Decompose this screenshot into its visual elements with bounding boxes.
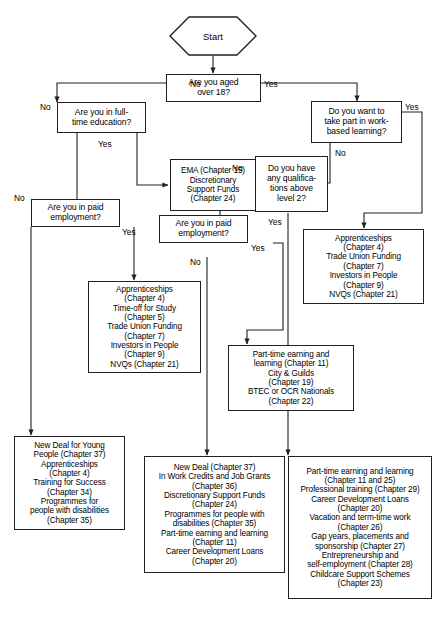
node-question-paid-employment-middle: Are you in paid employment?	[159, 215, 248, 243]
node-outcome-parttime-middle: Part-time earning and learning (Chapter …	[228, 345, 354, 411]
node-question-paid-employment-left: Are you in paid employment?	[31, 199, 120, 227]
edge-label-wbl-no: No	[335, 149, 346, 157]
edge-age-no	[57, 83, 166, 102]
edge-label-paid-mid-no: No	[190, 258, 201, 266]
edge-paid-mid-yes	[247, 243, 283, 344]
node-question-age: Are you aged over 18?	[166, 74, 261, 102]
node-outcome-ema: EMA (Chapter 15) Discretionary Support F…	[170, 159, 256, 211]
edge-label-paid-left-yes: Yes	[122, 228, 136, 236]
edge-label-wbl-yes: Yes	[405, 103, 419, 111]
node-outcome-new-deal-young-people: New Deal for Young People (Chapter 37) A…	[14, 436, 125, 530]
edge-label-quals-no: No	[232, 164, 243, 172]
node-question-qualifications: Do you have any qualifica- tions above l…	[255, 156, 328, 212]
edge-label-paid-left-no: No	[14, 194, 25, 202]
edge-label-quals-yes: Yes	[268, 218, 282, 226]
edge-label-fulltime-no: No	[40, 103, 51, 111]
edge-label-age-yes: Yes	[264, 80, 278, 88]
node-start: Start	[169, 16, 257, 56]
node-outcome-parttime-right: Part-time earning and learning (Chapter …	[288, 456, 432, 599]
edge-label-fulltime-yes: Yes	[98, 140, 112, 148]
node-outcome-apprenticeships-middle: Apprenticeships (Chapter 4) Time-off for…	[88, 281, 201, 373]
edge-label-paid-mid-yes: Yes	[251, 244, 265, 252]
node-start-label: Start	[203, 31, 223, 42]
edge-fulltime-yes	[137, 133, 168, 185]
node-question-work-based-learning: Do you want to take part in work- based …	[311, 101, 402, 143]
node-outcome-new-deal: New Deal (Chapter 37) In Work Credits an…	[144, 456, 285, 573]
flowchart-canvas: Start Are you aged over 18? Are you in f…	[0, 0, 436, 632]
node-question-fulltime-education: Are you in full- time education?	[57, 102, 146, 133]
node-outcome-apprenticeships-right: Apprenticeships (Chapter 4) Trade Union …	[303, 229, 424, 304]
edge-label-age-no: No	[190, 80, 201, 88]
